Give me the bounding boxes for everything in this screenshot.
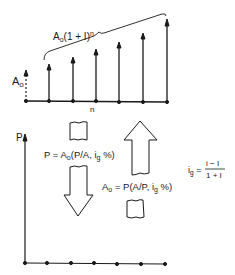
arrow-head-icon [24, 70, 28, 76]
up-arrow-icon [124, 121, 157, 218]
arrow-head-icon [165, 19, 169, 26]
arrow-head-icon [141, 33, 145, 39]
svg-text:ig =: ig = [188, 165, 201, 177]
period-n-label: n [90, 105, 94, 114]
down-arrow-icon [64, 122, 93, 216]
arrow-head-icon [23, 134, 27, 141]
arrow-head-icon [117, 42, 121, 48]
present-worth-formula: P = Ao(P/A, ig %) [44, 149, 115, 162]
arrow-head-icon [94, 49, 98, 55]
base-amount-label: Ao [12, 75, 24, 89]
top-cash-flow [24, 14, 169, 104]
growth-rate-numerator: i − I [206, 159, 219, 168]
growth-brace-label: Ao(1 + I)n [53, 30, 94, 43]
annuity-formula: Ao = P(A/P, ig %) [102, 181, 172, 194]
geometric-gradient-diagram: Ao n Ao(1 + I)n P P = Ao(P/A, ig %) Ao =… [0, 0, 235, 275]
present-worth-axis-label: P [16, 132, 23, 143]
arrow-head-icon [47, 64, 51, 70]
growth-rate-formula: ig = i − I 1 + I [188, 159, 225, 180]
arrow-head-icon [71, 57, 75, 63]
growth-rate-denominator: 1 + I [206, 171, 222, 180]
